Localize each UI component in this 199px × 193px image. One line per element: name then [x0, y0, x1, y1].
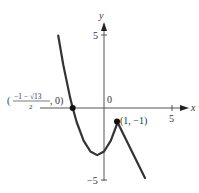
corner-point-label: (1, −1)	[120, 115, 147, 127]
x-intercept-label-prefix: (	[7, 95, 11, 107]
y-tick-5-label: 5	[93, 30, 98, 41]
origin-label: 0	[107, 94, 112, 105]
x-intercept-label-denominator: 2	[29, 103, 33, 111]
linear-segment	[118, 123, 145, 179]
graph-figure: y x 0 5 5 −5 ( −1 − √13 2 , 0) (1, −1)	[0, 0, 199, 193]
x-axis-arrow-icon	[180, 105, 189, 111]
x-axis-label: x	[190, 102, 196, 113]
graph-svg: y x 0 5 5 −5 ( −1 − √13 2 , 0) (1, −1)	[0, 0, 199, 193]
x-intercept-label-numerator: −1 − √13	[14, 92, 42, 101]
y-tick-neg5-label: −5	[87, 175, 98, 186]
y-axis-arrow-icon	[101, 22, 107, 31]
x-intercept-label-suffix: , 0)	[50, 95, 63, 107]
y-axis-label: y	[98, 10, 104, 21]
x-intercept-point	[70, 105, 76, 111]
x-tick-5-label: 5	[169, 113, 174, 124]
